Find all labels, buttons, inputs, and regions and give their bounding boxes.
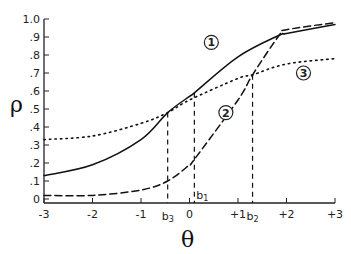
y-tick-label: 0 (33, 193, 40, 206)
x-tick-label: +1 (230, 208, 246, 221)
label-b1: b1 (196, 189, 208, 203)
y-tick-label: .3 (30, 139, 41, 152)
y-tick-label: .7 (30, 67, 41, 80)
y-tick-label: .5 (30, 103, 41, 116)
irt-curves-chart: 0.1.2.3.4.5.6.7.8.91.0 -3-2-10+1+2+3 b1b… (0, 0, 351, 254)
curve-2 (44, 23, 335, 196)
curve-label-3: 3 (300, 67, 308, 80)
x-axis-title: θ (181, 227, 194, 252)
y-axis-title: ρ (10, 92, 23, 117)
x-tick-label: 0 (186, 208, 193, 221)
y-axis: 0.1.2.3.4.5.6.7.8.91.0 (23, 13, 50, 206)
curve-label-2: 2 (222, 107, 230, 120)
x-tick-label: +3 (327, 208, 343, 221)
y-tick-label: .2 (30, 157, 41, 170)
label-b3: b3 (162, 210, 174, 224)
y-tick-label: .4 (30, 121, 41, 134)
curve-label-1: 1 (207, 36, 215, 49)
y-tick-label: .9 (30, 31, 41, 44)
y-tick-label: .8 (30, 49, 41, 62)
label-b2: b2 (247, 210, 259, 224)
curves (44, 23, 335, 196)
x-tick-label: -1 (136, 208, 147, 221)
y-tick-label: 1.0 (23, 13, 41, 26)
b-parameter-markers: b1b2b3 (162, 75, 259, 224)
curve-1 (44, 24, 335, 175)
x-tick-label: -2 (87, 208, 98, 221)
curve-3 (44, 59, 335, 140)
x-tick-label: +2 (278, 208, 294, 221)
curve-labels: 123 (204, 35, 310, 119)
y-tick-label: .6 (30, 85, 41, 98)
x-tick-label: -3 (39, 208, 50, 221)
y-tick-label: .1 (30, 175, 41, 188)
x-axis: -3-2-10+1+2+3 (39, 198, 344, 221)
